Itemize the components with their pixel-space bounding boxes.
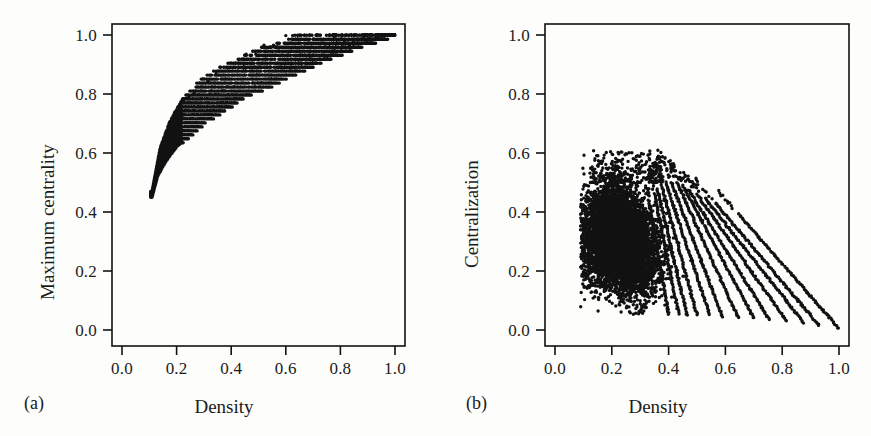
y-tick-label: 0.6 xyxy=(484,145,530,162)
x-axis-label-a: Density xyxy=(194,397,253,416)
y-tick-label: 0.6 xyxy=(51,145,97,162)
x-tick-label: 0.4 xyxy=(208,360,254,377)
y-tick-label: 1.0 xyxy=(484,27,530,44)
y-tick-label: 0.0 xyxy=(484,322,530,339)
y-tick-label: 0.4 xyxy=(51,204,97,221)
y-axis-label-b: Centralization xyxy=(462,160,481,268)
x-tick-label: 0.6 xyxy=(702,360,748,377)
x-tick-label: 0.0 xyxy=(99,360,145,377)
x-tick-label: 0.6 xyxy=(263,360,309,377)
x-tick-label: 0.4 xyxy=(646,360,692,377)
y-tick-label: 0.2 xyxy=(484,263,530,280)
x-tick-label: 1.0 xyxy=(816,360,862,377)
y-tick-label: 0.8 xyxy=(51,86,97,103)
x-tick-label: 0.0 xyxy=(532,360,578,377)
figure-container: Maximum centrality Density (a) 0.00.20.4… xyxy=(0,0,871,436)
x-tick-label: 1.0 xyxy=(372,360,418,377)
y-tick-label: 0.4 xyxy=(484,204,530,221)
panel-tag-b: (b) xyxy=(466,394,487,412)
scatter-points-b xyxy=(579,149,840,330)
chart-panel-b: Centralization Density (b) 0.00.20.40.60… xyxy=(440,0,871,436)
y-tick-label: 0.0 xyxy=(51,322,97,339)
y-tick-label: 0.8 xyxy=(484,86,530,103)
x-tick-label: 0.8 xyxy=(317,360,363,377)
y-tick-label: 1.0 xyxy=(51,27,97,44)
x-axis-label-b: Density xyxy=(628,397,687,416)
panel-tag-a: (a) xyxy=(24,394,44,412)
x-tick-label: 0.8 xyxy=(759,360,805,377)
chart-panel-a: Maximum centrality Density (a) 0.00.20.4… xyxy=(0,0,440,436)
y-tick-label: 0.2 xyxy=(51,263,97,280)
x-tick-label: 0.2 xyxy=(154,360,200,377)
scatter-points-a xyxy=(149,34,397,199)
x-tick-label: 0.2 xyxy=(589,360,635,377)
